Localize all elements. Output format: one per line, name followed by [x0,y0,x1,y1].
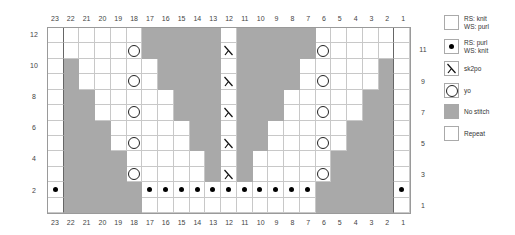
chart-cell-no-stitch [331,151,347,166]
chart-cell-knit [331,121,347,136]
purl-icon [257,187,262,192]
chart-cell-yo [127,105,143,120]
yo-icon [317,45,329,57]
chart-cell-knit [190,198,206,213]
column-label: 16 [158,15,174,22]
chart-cell-no-stitch [64,121,80,136]
chart-cell-sk2po [221,74,237,89]
chart-cell-knit [142,74,158,89]
sk2po-icon [223,76,234,87]
chart-cell-knit [363,59,379,74]
row-label: 11 [416,46,430,53]
chart-cell-knit [284,151,300,166]
chart-cell-no-stitch [64,105,80,120]
chart-cell-knit [379,28,395,43]
chart-cell-no-stitch [300,43,316,58]
yo-icon [317,75,329,87]
chart-cell-knit [48,151,64,166]
column-label: 7 [300,15,316,22]
column-label: 6 [316,15,332,22]
chart-cell-no-stitch [379,90,395,105]
chart-cell-knit [48,136,64,151]
chart-cell-knit [347,90,363,105]
chart-cell-knit [394,105,410,120]
chart-cell-sk2po [221,105,237,120]
chart-cell-knit [316,121,332,136]
chart-cell-no-stitch [284,59,300,74]
column-label: 23 [47,15,63,22]
chart-cell-knit [127,151,143,166]
chart-cell-no-stitch [268,74,284,89]
chart-cell-no-stitch [253,28,269,43]
chart-cell-knit [394,136,410,151]
chart-cell-knit [316,59,332,74]
chart-cell-no-stitch [363,136,379,151]
chart-cell-knit [268,121,284,136]
chart-cell-knit [79,74,95,89]
chart-cell-no-stitch [190,105,206,120]
row-label: 10 [27,62,41,69]
no-stitch-icon [444,104,459,119]
chart-cell-no-stitch [379,105,395,120]
chart-cell-knit [158,121,174,136]
chart-cell-yo [127,43,143,58]
chart-cell-knit [221,59,237,74]
chart-cell-no-stitch [64,182,80,197]
column-label: 20 [94,219,110,226]
yo-icon [444,83,459,98]
chart-cell-knit [363,43,379,58]
chart-cell-sk2po [221,43,237,58]
column-label: 19 [110,15,126,22]
chart-cell-no-stitch [268,90,284,105]
chart-cell-no-stitch [284,74,300,89]
chart-cell-purl [394,182,410,197]
chart-cell-no-stitch [190,121,206,136]
chart-cell-knit [111,136,127,151]
column-label: 9 [269,15,285,22]
chart-cell-knit [331,136,347,151]
chart-cell-knit [111,105,127,120]
chart-cell-knit [158,198,174,213]
chart-cell-no-stitch [300,28,316,43]
legend-label: RS: knit [464,15,489,23]
chart-cell-knit [268,136,284,151]
chart-cell-knit [64,43,80,58]
chart-cell-no-stitch [127,198,143,213]
sk2po-icon [223,169,234,180]
chart-cell-knit [331,74,347,89]
column-label: 14 [189,15,205,22]
chart-cell-knit [95,43,111,58]
chart-cell-no-stitch [111,182,127,197]
chart-cell-no-stitch [174,28,190,43]
chart-cell-knit [142,198,158,213]
chart-cell-yo [316,105,332,120]
chart-cell-no-stitch [331,167,347,182]
chart-cell-no-stitch [331,198,347,213]
chart-cell-no-stitch [64,74,80,89]
legend-item: Repeat [444,126,485,141]
purl-icon [179,187,184,192]
purl-icon [242,187,247,192]
chart-cell-knit [221,28,237,43]
chart-cell-yo [316,136,332,151]
chart-cell-knit [158,90,174,105]
column-label: 22 [63,219,79,226]
chart-cell-no-stitch [79,167,95,182]
row-label: 8 [27,93,41,100]
chart-cell-knit [347,28,363,43]
yo-icon [128,75,140,87]
chart-cell-no-stitch [237,167,253,182]
chart-cell-knit [331,90,347,105]
chart-cell-yo [127,136,143,151]
chart-cell-no-stitch [79,136,95,151]
chart-cell-knit [284,105,300,120]
chart-cell-no-stitch [174,90,190,105]
column-label: 9 [269,219,285,226]
chart-cell-no-stitch [205,59,221,74]
chart-cell-purl [284,182,300,197]
column-label: 5 [332,219,348,226]
chart-cell-no-stitch [190,43,206,58]
chart-cell-knit [95,105,111,120]
chart-cell-knit [253,198,269,213]
yo-icon [128,106,140,118]
